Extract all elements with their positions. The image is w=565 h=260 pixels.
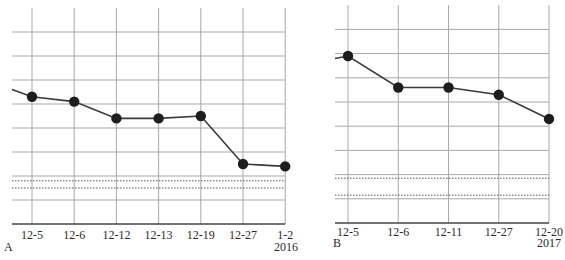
x-tick-label: 12-20 <box>535 225 563 239</box>
x-tick-label: 12-6 <box>63 228 85 242</box>
x-tick-label: 12-6 <box>387 225 409 239</box>
gridlines <box>335 5 549 223</box>
data-point <box>343 51 353 61</box>
gridlines <box>12 8 285 224</box>
data-point <box>238 159 248 169</box>
x-tick-label: 1-2 <box>277 228 293 242</box>
x-tick-label: 12-27 <box>485 225 513 239</box>
panel-a-year-label: 2016 <box>274 240 298 254</box>
x-tick-label: 12-11 <box>435 225 463 239</box>
data-point <box>111 113 121 123</box>
panel-a-label: A <box>4 240 13 254</box>
x-tick-label: 12-19 <box>187 228 215 242</box>
series-line <box>335 56 549 119</box>
data-point <box>544 114 554 124</box>
data-point <box>280 161 290 171</box>
x-tick-label: 12-5 <box>21 228 43 242</box>
panel-b: B 2017 12-512-612-1112-2712-20 <box>333 5 563 250</box>
data-point <box>393 82 403 92</box>
x-tick-label: 12-12 <box>102 228 130 242</box>
data-point <box>196 111 206 121</box>
x-tick-label: 12-5 <box>337 225 359 239</box>
chart-figure: A 2016 12-512-612-1212-1312-1912-271-2 B… <box>0 0 565 260</box>
data-point <box>443 82 453 92</box>
data-point <box>69 96 79 106</box>
data-point <box>153 113 163 123</box>
data-point <box>27 92 37 102</box>
data-point <box>494 90 504 100</box>
x-tick-label: 12-13 <box>145 228 173 242</box>
x-tick-label: 12-27 <box>229 228 257 242</box>
panel-a: A 2016 12-512-612-1212-1312-1912-271-2 <box>4 8 298 254</box>
